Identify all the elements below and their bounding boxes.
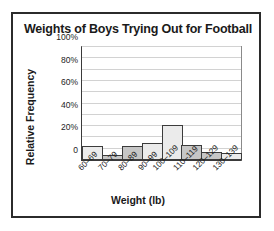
x-axis-label: Weight (lb) xyxy=(13,194,263,206)
y-axis-label: Relative Frequency xyxy=(24,57,36,177)
chart-title: Weights of Boys Trying Out for Football xyxy=(13,22,263,36)
chart-card: Weights of Boys Trying Out for Football … xyxy=(11,12,261,218)
x-tick-label: 60–69 xyxy=(76,149,99,172)
bar-series xyxy=(82,47,241,160)
plot-area: 020%40%60%80%100% xyxy=(81,46,242,161)
y-tick-label: 0 xyxy=(73,145,78,155)
y-tick-label: 20% xyxy=(61,122,78,132)
y-tick-label: 80% xyxy=(61,55,78,65)
y-tick-label: 60% xyxy=(61,77,78,87)
y-tick-label: 40% xyxy=(61,100,78,110)
y-tick-label: 100% xyxy=(56,32,78,42)
